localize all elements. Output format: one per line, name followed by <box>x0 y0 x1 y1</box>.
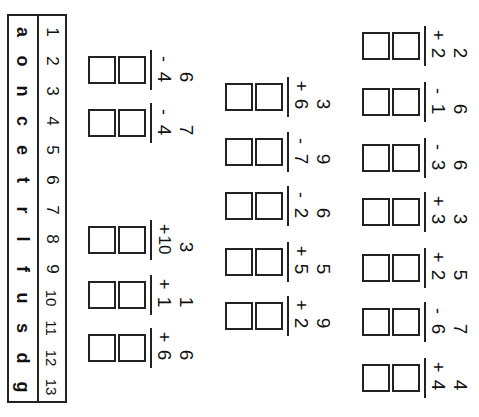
answer-box-tens[interactable] <box>225 302 253 330</box>
sum-line <box>287 77 289 117</box>
answer-box-tens[interactable] <box>362 32 390 60</box>
math-problem: +29 <box>225 296 345 336</box>
key-number: 8 <box>38 225 66 253</box>
sum-line <box>424 192 426 232</box>
second-operand: 2 <box>291 312 313 334</box>
second-operand: 3 <box>428 154 450 176</box>
answer-box-tens[interactable] <box>362 308 390 336</box>
first-operand: 6 <box>313 202 335 224</box>
answer-box-tens[interactable] <box>362 198 390 226</box>
answer-box-tens[interactable] <box>88 281 116 309</box>
sum-line <box>424 358 426 398</box>
second-operand: 6 <box>291 93 313 115</box>
second-operand: 4 <box>154 119 176 141</box>
answer-box-ones[interactable] <box>392 254 420 282</box>
key-number: 7 <box>38 196 66 224</box>
sum-line <box>424 82 426 122</box>
first-operand: 7 <box>450 318 472 340</box>
first-operand: 5 <box>313 258 335 280</box>
key-letter: e <box>9 136 37 164</box>
key-number: 11 <box>38 314 66 342</box>
answer-box-ones[interactable] <box>255 138 283 166</box>
second-operand: 10 <box>154 234 176 256</box>
sum-line <box>424 138 426 178</box>
answer-box-ones[interactable] <box>255 302 283 330</box>
answer-box-ones[interactable] <box>118 56 146 84</box>
math-problem: +44 <box>362 358 479 398</box>
key-letter: c <box>9 107 37 135</box>
math-problem: -36 <box>362 138 479 178</box>
sum-line <box>150 328 152 368</box>
math-problem: +63 <box>225 77 345 117</box>
first-operand: 6 <box>450 154 472 176</box>
answer-box-tens[interactable] <box>362 144 390 172</box>
key-number: 12 <box>38 344 66 372</box>
sum-line <box>424 302 426 342</box>
sum-line <box>287 132 289 172</box>
answer-box-tens[interactable] <box>362 254 390 282</box>
answer-box-tens[interactable] <box>225 192 253 220</box>
key-number: 6 <box>38 166 66 194</box>
key-letter: n <box>9 77 37 105</box>
math-problem: -26 <box>225 186 345 226</box>
sum-line <box>150 50 152 90</box>
sum-line <box>424 26 426 66</box>
answer-box-tens[interactable] <box>88 334 116 362</box>
answer-box-ones[interactable] <box>255 192 283 220</box>
key-letter: d <box>9 344 37 372</box>
key-number: 1 <box>38 18 66 46</box>
answer-box-ones[interactable] <box>392 364 420 392</box>
second-operand: 4 <box>428 374 450 396</box>
sum-line <box>150 220 152 260</box>
first-operand: 4 <box>450 374 472 396</box>
answer-box-ones[interactable] <box>118 281 146 309</box>
math-problem: +33 <box>362 192 479 232</box>
second-operand: 3 <box>428 208 450 230</box>
answer-box-tens[interactable] <box>88 109 116 137</box>
key-number: 10 <box>38 284 66 312</box>
first-operand: 6 <box>176 344 198 366</box>
decoder-key-table: 1a2o3n4c5e6t7r8l9f10u11s12d13g <box>7 14 67 403</box>
answer-box-ones[interactable] <box>392 198 420 226</box>
key-letter: g <box>9 373 37 401</box>
sum-line <box>150 103 152 143</box>
answer-box-ones[interactable] <box>255 248 283 276</box>
answer-box-tens[interactable] <box>225 138 253 166</box>
first-operand: 5 <box>450 264 472 286</box>
first-operand: 9 <box>313 148 335 170</box>
first-operand: 1 <box>176 291 198 313</box>
sum-line <box>424 248 426 288</box>
answer-box-tens[interactable] <box>225 83 253 111</box>
second-operand: 1 <box>428 98 450 120</box>
math-problem: -16 <box>362 82 479 122</box>
answer-box-ones[interactable] <box>392 308 420 336</box>
second-operand: 2 <box>428 264 450 286</box>
first-operand: 9 <box>313 312 335 334</box>
first-operand: 3 <box>313 93 335 115</box>
answer-box-tens[interactable] <box>362 88 390 116</box>
answer-box-tens[interactable] <box>225 248 253 276</box>
first-operand: 2 <box>450 42 472 64</box>
answer-box-ones[interactable] <box>392 32 420 60</box>
sum-line <box>287 242 289 282</box>
answer-box-ones[interactable] <box>118 334 146 362</box>
answer-box-tens[interactable] <box>362 364 390 392</box>
answer-box-ones[interactable] <box>255 83 283 111</box>
answer-box-ones[interactable] <box>392 88 420 116</box>
key-letter: s <box>9 314 37 342</box>
key-letter: l <box>9 225 37 253</box>
second-operand: 6 <box>154 344 176 366</box>
key-letter: t <box>9 166 37 194</box>
key-number: 9 <box>38 255 66 283</box>
first-operand: 6 <box>176 66 198 88</box>
answer-box-tens[interactable] <box>88 226 116 254</box>
answer-box-tens[interactable] <box>88 56 116 84</box>
answer-box-ones[interactable] <box>118 226 146 254</box>
answer-box-ones[interactable] <box>118 109 146 137</box>
math-problem: +22 <box>362 26 479 66</box>
first-operand: 7 <box>176 119 198 141</box>
sum-line <box>287 296 289 336</box>
sum-line <box>150 275 152 315</box>
first-operand: 6 <box>450 98 472 120</box>
answer-box-ones[interactable] <box>392 144 420 172</box>
